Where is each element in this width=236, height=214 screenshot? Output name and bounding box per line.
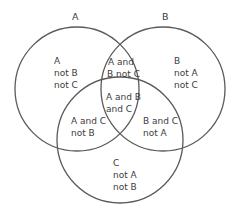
region-b-and-c-not-a: B and C not A xyxy=(143,116,178,138)
region-text-line: not A xyxy=(113,170,138,180)
region-text-line: A and B xyxy=(106,92,141,102)
region-text-line: not A xyxy=(143,128,168,138)
region-text-line: not C xyxy=(54,80,78,90)
set-label-a: A xyxy=(72,11,79,22)
region-text-line: not B xyxy=(113,182,137,192)
region-text-line: A xyxy=(54,56,61,66)
region-a-and-c-not-b: A and C not B xyxy=(71,116,106,138)
venn-diagram: A B A not B not C B not A not C A and B … xyxy=(0,0,236,214)
region-text-line: and C xyxy=(106,104,132,114)
region-text-line: B not C xyxy=(107,69,140,79)
region-b-only: B not A not C xyxy=(174,56,199,90)
region-text-line: A and xyxy=(108,57,134,67)
region-text-line: not A xyxy=(174,68,199,78)
region-text-line: A and C xyxy=(71,116,106,126)
region-c-only: C not A not B xyxy=(113,158,138,192)
region-a-only: A not B not C xyxy=(54,56,78,90)
region-text-line: not B xyxy=(54,68,78,78)
region-text-line: C xyxy=(113,158,119,168)
set-label-b: B xyxy=(162,11,169,22)
region-text-line: B and C xyxy=(143,116,178,126)
region-text-line: not B xyxy=(71,128,95,138)
region-text-line: not C xyxy=(174,80,198,90)
region-text-line: B xyxy=(174,56,180,66)
